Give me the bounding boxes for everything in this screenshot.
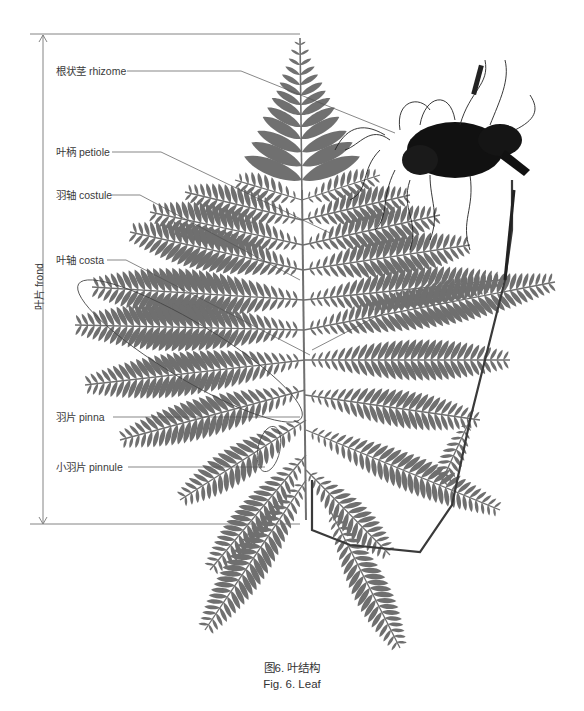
label-petiole: 叶柄 petiole	[56, 146, 110, 158]
caption-english: Fig. 6. Leaf	[0, 678, 584, 690]
caption-chinese: 图6. 叶结构	[0, 659, 584, 675]
label-costule: 羽轴 costule	[56, 189, 112, 201]
fern-leaf-diagram	[0, 0, 584, 711]
label-pinna: 羽片 pinna	[56, 411, 105, 423]
label-frond-dimension: 叶片 frond	[31, 263, 46, 310]
label-pinnule: 小羽片 pinnule	[56, 461, 123, 473]
label-rhizome: 根状茎 rhizome	[56, 65, 126, 77]
label-costa: 叶轴 costa	[56, 254, 104, 266]
